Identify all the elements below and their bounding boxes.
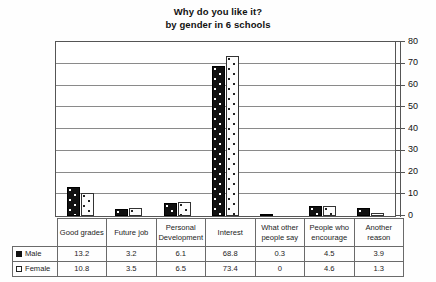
chart-title-line-2: by gender in 6 schools: [0, 19, 436, 32]
y-axis-tick: [396, 106, 405, 107]
table-cell: 68.8: [206, 247, 256, 262]
table-cell: 0: [255, 262, 305, 277]
table-cell: 6.5: [156, 262, 206, 277]
chart-title: Why do you like it? by gender in 6 schoo…: [0, 6, 436, 31]
table-cell: 6.1: [156, 247, 206, 262]
bar-female: [178, 202, 191, 216]
series-label: Male: [25, 249, 41, 258]
bar-male: [309, 206, 322, 216]
y-axis-tick: [396, 41, 405, 42]
table-header-cell: People who encourage: [305, 219, 355, 247]
legend-item-male: Male: [13, 247, 58, 262]
y-axis-tick-label: 60: [408, 80, 418, 89]
y-axis-tick: [396, 128, 405, 129]
bar-female: [226, 56, 239, 216]
y-axis-tick-label: 10: [408, 189, 418, 198]
y-axis-tick-label: 30: [408, 145, 418, 154]
bar-female: [129, 208, 142, 216]
y-axis-tick-label: 20: [408, 167, 418, 176]
table-header-cell: What other people say: [255, 219, 305, 247]
table-corner-cell: [13, 219, 58, 247]
bar-group: [153, 42, 201, 216]
y-axis-tick-label: 50: [408, 102, 418, 111]
table-cell: 4.6: [305, 262, 355, 277]
table-header-row: Good grades Future job Personal Developm…: [13, 219, 404, 247]
plot-area: [55, 41, 396, 217]
bar-group: [56, 42, 104, 216]
bar-group: [298, 42, 346, 216]
bar-male: [212, 66, 225, 216]
table-cell: 1.3: [354, 262, 404, 277]
table-row: Female 10.8 3.5 6.5 73.4 0 4.6 1.3: [13, 262, 404, 277]
filled-square-icon: [16, 251, 22, 257]
y-axis-tick-label: 40: [408, 124, 418, 133]
open-square-icon: [16, 266, 22, 272]
y-axis-tick: [396, 215, 405, 216]
y-axis-tick: [396, 150, 405, 151]
y-axis-tick-label: 0: [408, 211, 413, 220]
y-axis-tick: [396, 172, 405, 173]
table-header-cell: Another reason: [354, 219, 404, 247]
table-cell: 3.2: [107, 247, 157, 262]
table-cell: 3.9: [354, 247, 404, 262]
table-header-cell: Interest: [206, 219, 256, 247]
table-header-cell: Good grades: [57, 219, 107, 247]
bar-group: [201, 42, 249, 216]
table-cell: 10.8: [57, 262, 107, 277]
bar-female: [81, 193, 94, 216]
table-cell: 3.5: [107, 262, 157, 277]
y-axis-tick: [396, 63, 405, 64]
bar-group: [104, 42, 152, 216]
bar-male: [67, 187, 80, 216]
y-axis-tick-label: 70: [408, 58, 418, 67]
y-axis-line: [400, 41, 401, 217]
y-axis-tick: [396, 85, 405, 86]
y-axis-tick: [396, 193, 405, 194]
table-cell: 0.3: [255, 247, 305, 262]
series-label: Female: [25, 264, 50, 273]
bar-male: [115, 209, 128, 216]
bar-female: [323, 206, 336, 216]
bar-female: [371, 213, 384, 216]
table-row: Male 13.2 3.2 6.1 68.8 0.3 4.5 3.9: [13, 247, 404, 262]
bar-group: [250, 42, 298, 216]
chart-title-line-1: Why do you like it?: [0, 6, 436, 19]
data-table: Good grades Future job Personal Developm…: [12, 218, 404, 277]
y-axis: 01020304050607080: [396, 41, 436, 217]
bar-male: [164, 203, 177, 216]
bar-group: [347, 42, 395, 216]
table-header-cell: Personal Development: [156, 219, 206, 247]
table-cell: 73.4: [206, 262, 256, 277]
y-axis-tick-label: 80: [408, 37, 418, 46]
table-cell: 4.5: [305, 247, 355, 262]
table-header-cell: Future job: [107, 219, 157, 247]
table-cell: 13.2: [57, 247, 107, 262]
bar-male: [260, 214, 273, 216]
chart-figure: Why do you like it? by gender in 6 schoo…: [0, 0, 436, 282]
bar-male: [357, 208, 370, 216]
legend-item-female: Female: [13, 262, 58, 277]
